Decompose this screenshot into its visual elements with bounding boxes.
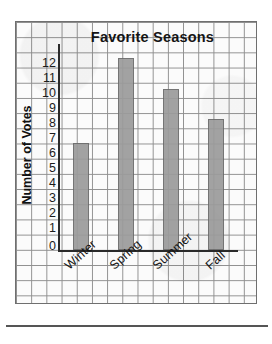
bar-summer	[163, 89, 179, 250]
y-tick-3: 3	[36, 192, 56, 205]
y-tick-11: 11	[36, 72, 56, 85]
y-tick-9: 9	[36, 102, 56, 115]
y-axis-line	[58, 44, 60, 252]
y-tick-5: 5	[36, 162, 56, 175]
bar-winter	[73, 143, 89, 250]
y-tick-8: 8	[36, 117, 56, 130]
y-tick-4: 4	[36, 177, 56, 190]
y-tick-1: 1	[36, 222, 56, 235]
y-tick-0: 0	[36, 240, 56, 253]
y-tick-7: 7	[36, 132, 56, 145]
page-divider-rule	[6, 325, 268, 327]
y-tick-12: 12	[36, 57, 56, 70]
bar-fall	[208, 119, 224, 250]
bar-chart: Favorite Seasons Number of Votes 12 11 1…	[0, 0, 272, 344]
y-tick-6: 6	[36, 147, 56, 160]
bar-spring	[118, 58, 134, 250]
chart-title: Favorite Seasons	[70, 29, 235, 45]
y-axis-tick-labels: 12 11 10 9 8 7 6 5 4 3 2 1 0	[36, 0, 56, 344]
y-axis-title: Number of Votes	[20, 90, 34, 220]
y-tick-2: 2	[36, 207, 56, 220]
y-tick-10: 10	[36, 87, 56, 100]
